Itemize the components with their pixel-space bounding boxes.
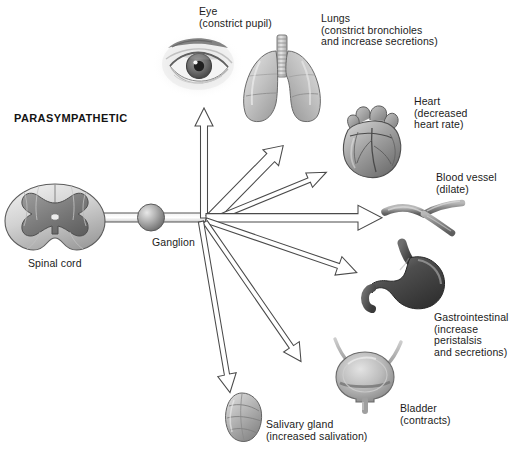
parasympathetic-diagram: PARASYMPATHETIC Spinal cord Ganglion Eye… [0,0,532,450]
arrow-to-bladder [203,221,301,362]
label-blood-vessel: Blood vessel (dilate) [436,172,497,195]
label-bladder: Bladder (contracts) [400,403,451,426]
label-eye: Eye (constrict pupil) [199,6,272,29]
blood-vessel-illustration [382,196,468,240]
heart-illustration [332,102,412,184]
lungs-illustration [236,31,328,129]
bladder-illustration [322,336,408,412]
label-gastrointestinal: Gastrointestinal (increase peristalsis a… [434,312,526,358]
label-salivary-gland: Salivary gland (increased salivation) [266,419,367,442]
label-lungs: Lungs (constrict bronchioles and increas… [321,13,438,48]
arrow-to-salivary-gland [198,221,236,393]
salivary-gland-illustration [216,390,272,446]
stomach-illustration [358,240,450,322]
arrow-to-lungs [206,146,283,224]
page-title: PARASYMPATHETIC [14,112,128,124]
label-spinal-cord: Spinal cord [28,258,82,270]
arrow-to-gastrointestinal [205,218,357,275]
label-ganglion: Ganglion [152,237,195,249]
spinal-cord-illustration [2,182,112,254]
label-heart: Heart (decreased heart rate) [414,96,468,131]
eye-illustration [150,28,246,102]
ganglion-node [138,204,165,231]
arrow-to-eye [195,108,213,218]
